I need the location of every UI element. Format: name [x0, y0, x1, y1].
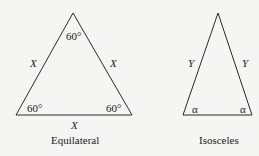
equilateral-right-angle: 60° [106, 103, 121, 114]
equilateral-left-angle: 60° [27, 103, 42, 114]
isosceles-caption: Isosceles [199, 135, 239, 146]
equilateral-top-angle: 60° [66, 31, 81, 42]
isosceles-right-side-label: Y [242, 58, 248, 69]
isosceles-left-angle: α [192, 104, 198, 115]
isosceles-left-side-label: Y [188, 58, 194, 69]
equilateral-right-side-label: X [110, 58, 117, 69]
equilateral-left-side-label: X [30, 58, 37, 69]
isosceles-right-angle: α [240, 104, 246, 115]
equilateral-base-label: X [71, 120, 78, 131]
equilateral-caption: Equilateral [51, 135, 99, 146]
triangles-diagram [0, 0, 259, 156]
